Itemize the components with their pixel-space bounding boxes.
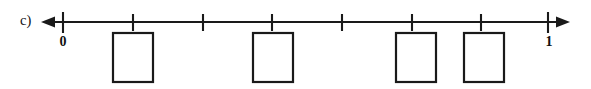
answer-box-3[interactable] [396, 33, 436, 82]
answer-box-4[interactable] [464, 33, 504, 82]
left-arrow-icon [41, 17, 55, 28]
answer-box-2[interactable] [253, 33, 293, 82]
number-line-svg: 0 1 c) [0, 0, 591, 89]
answer-box-1[interactable] [113, 33, 153, 82]
start-label: 0 [60, 34, 67, 49]
end-label: 1 [546, 34, 553, 49]
number-line-figure: 0 1 c) [0, 0, 591, 89]
right-arrow-icon [556, 17, 570, 28]
item-label: c) [20, 12, 31, 29]
